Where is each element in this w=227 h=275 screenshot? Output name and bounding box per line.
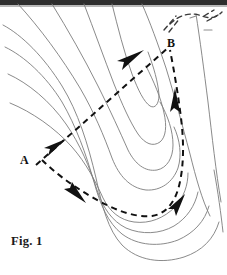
valley-route-arrowhead-1 bbox=[64, 182, 86, 203]
valley-route-path bbox=[42, 50, 183, 216]
direct-route-arrowhead-lower bbox=[44, 139, 66, 156]
tick-mark-2 bbox=[190, 16, 196, 18]
figure-container: A B Fig. 1 bbox=[0, 0, 227, 275]
valley-route-group bbox=[42, 50, 185, 216]
squiggle-hatch-1 bbox=[164, 16, 176, 30]
point-label-b: B bbox=[167, 36, 175, 50]
squiggle-top-right bbox=[170, 12, 222, 24]
contour-line-4 bbox=[10, 103, 188, 222]
squiggle-hatch-3 bbox=[204, 10, 214, 16]
figure-caption: Fig. 1 bbox=[11, 234, 43, 249]
tick-marks-group bbox=[190, 16, 212, 30]
contour-lines-group bbox=[3, 4, 223, 261]
contour-line-10 bbox=[196, 14, 221, 202]
squiggle-hatch-2 bbox=[169, 18, 180, 32]
contour-line-9 bbox=[142, 4, 210, 216]
direct-route-arrowhead bbox=[117, 50, 144, 70]
contour-line-7 bbox=[84, 4, 166, 144]
squiggle-group bbox=[164, 10, 222, 32]
point-label-a: A bbox=[20, 153, 29, 167]
